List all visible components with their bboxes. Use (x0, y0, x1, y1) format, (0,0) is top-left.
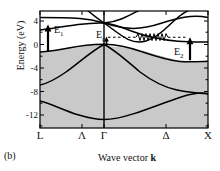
E1-label: E1 (54, 25, 64, 39)
band-structure-figure: 4 0 -4 -8 -12 L Λ Γ Δ X E1 Eg E2 Energy … (0, 0, 220, 171)
x-axis-title-plain: Wave vector (98, 152, 151, 163)
y-axis-title: Energy (eV) (15, 0, 26, 92)
E1-label-sub: 1 (60, 30, 64, 38)
panel-label: (b) (4, 150, 16, 161)
x-axis-title: Wave vector k (52, 152, 202, 163)
x-axis-title-bold: k (150, 152, 156, 163)
x-tick-label-Delta: Δ (154, 130, 178, 141)
Eg-label-sub: g (102, 35, 106, 43)
x-tick-label-L: L (28, 130, 52, 141)
y-tick-label-m12: -12 (2, 111, 38, 120)
x-tick-label-Gamma: Γ (92, 130, 116, 141)
Eg-label: Eg (96, 30, 106, 44)
E2-label-sub: 2 (180, 52, 184, 60)
E2-label: E2 (174, 47, 184, 61)
x-tick-label-Lambda: Λ (70, 130, 94, 141)
x-tick-label-X: X (196, 130, 220, 141)
